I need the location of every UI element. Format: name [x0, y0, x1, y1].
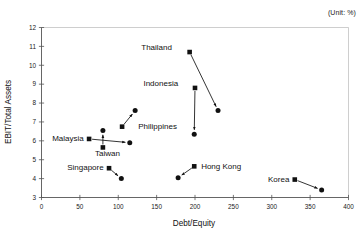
series-taiwan	[100, 128, 105, 150]
series-label-singapore: Singapore	[67, 163, 104, 172]
x-tick-label: 300	[266, 203, 277, 210]
series-hong-kong	[176, 164, 197, 180]
end-marker-circle	[133, 108, 138, 113]
end-marker-circle	[176, 175, 181, 180]
y-tick-label: 5	[32, 156, 36, 163]
x-axis-title: Debt/Equity	[173, 219, 216, 228]
transition-arrow	[298, 181, 318, 189]
transition-arrow	[111, 170, 118, 176]
y-tick-label: 10	[29, 62, 37, 69]
start-marker-square	[87, 137, 92, 142]
y-tick-label: 12	[29, 24, 37, 31]
scatter-plot: 3456789101112050100150200250300350400 Th…	[0, 0, 362, 234]
transition-arrow	[182, 168, 192, 175]
series-singapore	[107, 166, 124, 181]
end-marker-circle	[127, 140, 132, 145]
series-malaysia	[87, 137, 132, 146]
transition-arrow	[92, 139, 125, 142]
end-marker-circle	[319, 187, 324, 192]
end-marker-circle	[192, 132, 197, 137]
x-tick-label: 100	[113, 203, 124, 210]
chart-figure: (Unit: %) 345678910111205010015020025030…	[0, 0, 362, 234]
y-tick-label: 3	[32, 194, 36, 201]
start-marker-square	[192, 164, 197, 169]
y-tick-label: 9	[32, 80, 36, 87]
start-marker-square	[187, 50, 192, 55]
transition-arrow	[124, 114, 132, 124]
start-marker-square	[193, 86, 198, 91]
series-label-thailand: Thailand	[141, 43, 172, 52]
series-korea	[292, 177, 324, 192]
x-tick-label: 400	[343, 203, 354, 210]
y-tick-label: 8	[32, 99, 36, 106]
series-label-malaysia: Malaysia	[52, 134, 84, 143]
x-tick-label: 200	[190, 203, 201, 210]
x-tick-label: 50	[76, 203, 84, 210]
start-marker-square	[120, 124, 125, 129]
end-marker-circle	[216, 108, 221, 113]
series-indonesia	[192, 86, 198, 137]
series-label-korea: Korea	[268, 175, 290, 184]
x-tick-label: 250	[228, 203, 239, 210]
end-marker-circle	[119, 176, 124, 181]
series-label-indonesia: Indonesia	[143, 79, 178, 88]
series-labels-layer: ThailandIndonesiaPhilippinesMalaysiaTaiw…	[52, 43, 290, 183]
x-tick-label: 0	[40, 203, 44, 210]
transition-arrow	[194, 91, 195, 130]
series-label-philippines: Philippines	[138, 122, 177, 131]
series-label-taiwan: Taiwan	[95, 149, 120, 158]
y-tick-label: 11	[29, 43, 36, 50]
end-marker-circle	[100, 128, 105, 133]
x-tick-label: 150	[151, 203, 162, 210]
data-series-layer	[87, 50, 324, 193]
y-tick-label: 6	[32, 137, 36, 144]
start-marker-square	[107, 166, 112, 171]
x-tick-label: 350	[305, 203, 316, 210]
series-thailand	[187, 50, 220, 113]
series-label-hong-kong: Hong Kong	[201, 162, 241, 171]
y-axis-title: EBIT/Total Assets	[4, 80, 13, 144]
y-tick-label: 4	[32, 175, 36, 182]
series-philippines	[120, 108, 138, 129]
y-tick-label: 7	[32, 118, 36, 125]
start-marker-square	[292, 177, 297, 182]
